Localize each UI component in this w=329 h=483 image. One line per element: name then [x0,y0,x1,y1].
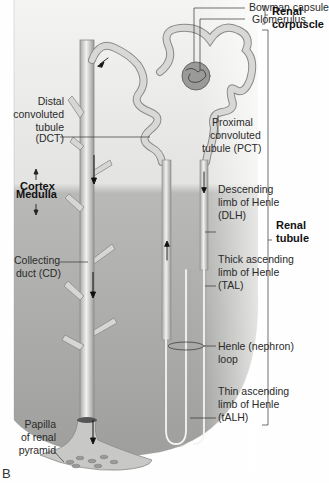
label-cd-2: duct (CD) [16,267,61,280]
label-dlh-1: Descending [218,183,273,196]
label-medulla: Medulla [16,188,57,201]
panel-label: B [2,466,11,481]
label-renal-tubule-2: tubule [276,232,309,245]
label-papilla-2: of renal [21,431,56,444]
label-cd-1: Collecting [14,254,60,267]
label-tal-2: limb of Henle [218,266,279,279]
label-dlh-2: limb of Henle [218,196,279,209]
label-renal-corpuscle-1: Renal [272,5,302,18]
label-dlh-3: (DLH) [218,209,246,222]
label-renal-corpuscle-2: corpuscle [272,18,324,31]
label-papilla-3: pyramid [19,444,56,457]
label-renal-tubule-1: Renal [276,219,306,232]
label-dct-1: Distal [38,95,64,108]
label-papilla-1: Papilla [24,418,56,431]
label-pct-1: Proximal [212,116,253,129]
label-dct-4: (DCT) [35,132,64,145]
label-pct-2: convoluted [210,129,261,142]
label-loop-1: Henle (nephron) [218,340,294,353]
label-dct-2: convoluted [13,108,64,121]
label-talh-3: (tALH) [218,411,248,424]
label-tal-1: Thick ascending [218,253,294,266]
label-talh-2: limb of Henle [218,398,279,411]
label-talh-1: Thin ascending [218,385,289,398]
label-pct-3: tubule (PCT) [202,142,262,155]
label-loop-2: loop [218,353,238,366]
label-tal-3: (TAL) [218,279,243,292]
